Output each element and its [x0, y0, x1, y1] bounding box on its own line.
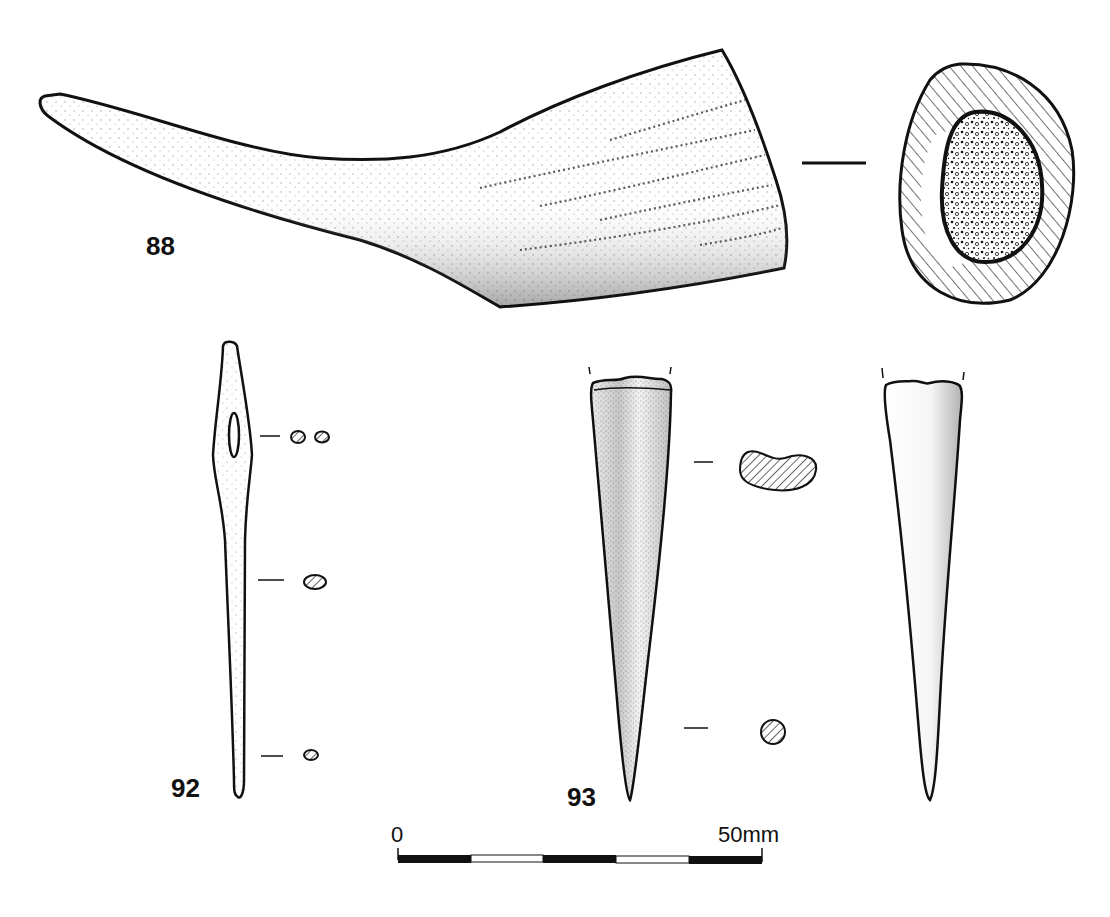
scale-segment-5: [689, 856, 762, 864]
figure-label-93: 93: [567, 784, 596, 810]
scale-segment-4: [616, 856, 689, 863]
figure-label-88: 88: [146, 233, 175, 259]
needle-section-tip: [304, 750, 318, 760]
scale-start-label: 0: [391, 824, 403, 846]
needle-section-eye-b: [315, 432, 329, 443]
horn-core-cross-section: [900, 64, 1074, 303]
scale-bar: [398, 848, 762, 864]
scale-segment-1: [398, 855, 471, 863]
needle-section-mid: [304, 575, 326, 589]
artefact-plate: [0, 0, 1110, 917]
scale-segment-3: [543, 855, 616, 863]
point-section-upper: [740, 451, 816, 490]
needle-section-eye-a: [291, 431, 305, 443]
needle-eye: [229, 413, 239, 457]
point-section-lower: [761, 720, 785, 744]
figure-label-92: 92: [171, 775, 200, 801]
figure-93-point: [589, 367, 964, 800]
figure-88-horn-core: [40, 50, 1074, 307]
figure-92-needle: [213, 342, 329, 798]
scale-segment-2: [471, 855, 543, 862]
scale-end-label: 50mm: [718, 824, 779, 846]
